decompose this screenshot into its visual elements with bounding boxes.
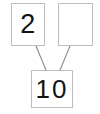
connector-left-line <box>36 46 46 70</box>
number-bond-diagram: 2 10 <box>0 0 100 114</box>
part-right-box[interactable] <box>58 3 93 46</box>
part-left-value: 2 <box>20 11 36 38</box>
whole-value: 10 <box>36 76 69 102</box>
part-left-box[interactable]: 2 <box>11 3 45 46</box>
connector-right-line <box>60 46 70 70</box>
whole-box[interactable]: 10 <box>31 70 73 108</box>
